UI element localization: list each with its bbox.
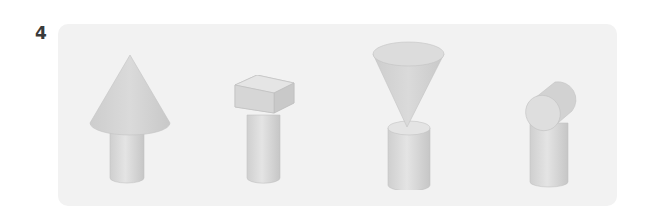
cuboid-on-cylinder-shape [230,75,320,190]
cone-on-cylinder-shape [85,50,175,190]
inverted-cone-on-cylinder-shape [370,40,460,190]
question-number: 4 [35,23,47,43]
tilted-cylinder-on-cylinder-shape [515,78,590,193]
